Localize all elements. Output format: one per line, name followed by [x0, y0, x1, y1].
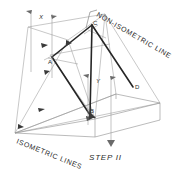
- x-arrow-left: [26, 10, 32, 14]
- arrowhead-6: [18, 124, 24, 129]
- base-box-bottom-right: [95, 120, 160, 137]
- isometric-annotation: ISOMETRIC LINES: [16, 137, 84, 170]
- wedge-left-diagonal: [28, 27, 68, 40]
- arrowhead-3: [44, 70, 50, 75]
- wedge-base-diagonal-2: [15, 94, 116, 133]
- non-isometric-line-label: NON-ISOMETRIC LINE: [96, 11, 173, 60]
- wedge-center-slope: [95, 14, 105, 119]
- step-leader-arrow: [107, 140, 115, 147]
- point-label-B: B: [90, 108, 94, 114]
- arrowhead-4: [38, 108, 45, 112]
- point-label-C: C: [93, 20, 98, 26]
- point-label-D: D: [135, 84, 140, 90]
- x-arrow-right: [51, 15, 57, 19]
- arrowhead-1: [41, 43, 48, 48]
- y-arrow-right: [110, 76, 116, 80]
- isometric-drawing-figure: X Y A B C D NON-ISOMETRIC LINE ISOMETRIC…: [0, 0, 177, 172]
- base-box-bottom-left: [15, 133, 95, 137]
- line-A-B: [52, 57, 90, 115]
- wedge-left-vertical: [15, 27, 28, 133]
- wedge-front-slope: [15, 40, 68, 133]
- base-box-top-face: [15, 94, 160, 133]
- wedge-construction-lines: [15, 14, 160, 133]
- step-title: STEP II: [89, 153, 122, 162]
- x-dimension-label: X: [38, 14, 44, 20]
- point-label-A: A: [48, 59, 52, 65]
- y-dimension-label: Y: [96, 78, 101, 84]
- base-box-outline: [15, 94, 160, 137]
- y-arrow-left: [83, 74, 89, 78]
- step-caption-group: STEP II: [89, 128, 122, 162]
- isometric-lines-label: ISOMETRIC LINES: [16, 137, 84, 170]
- technical-drawing-canvas: X Y A B C D NON-ISOMETRIC LINE ISOMETRIC…: [0, 0, 177, 172]
- y-dimension-group: Y: [83, 74, 116, 128]
- line-B-C: [90, 25, 92, 115]
